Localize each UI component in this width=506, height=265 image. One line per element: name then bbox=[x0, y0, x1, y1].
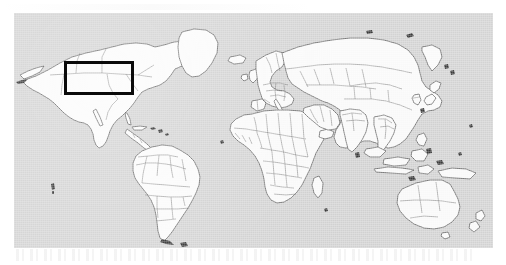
landmass-caribbean bbox=[132, 126, 169, 136]
scan-artifact-top bbox=[0, 4, 506, 10]
landmass-iceland bbox=[228, 55, 246, 64]
region-highlight-rectangle bbox=[64, 61, 134, 95]
world-map-figure bbox=[14, 13, 493, 248]
landmass-australia bbox=[397, 180, 460, 239]
landmass-new-guinea bbox=[438, 168, 476, 179]
landmass-greenland bbox=[178, 29, 218, 77]
landmass-south-america bbox=[133, 145, 200, 247]
world-map-svg bbox=[14, 13, 493, 248]
page-root bbox=[0, 0, 506, 265]
landmass-indonesia bbox=[364, 147, 444, 181]
landmass-new-zealand bbox=[469, 210, 485, 232]
scan-artifact-bottom bbox=[16, 249, 476, 261]
landmass-north-america bbox=[16, 41, 207, 152]
